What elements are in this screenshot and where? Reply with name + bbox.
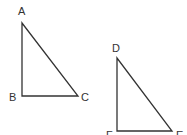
label-c: C	[81, 91, 89, 103]
triangles-diagram: A B C D F E	[0, 0, 187, 135]
label-e: E	[176, 129, 183, 135]
label-b: B	[9, 91, 16, 103]
label-a: A	[18, 5, 26, 17]
triangle-abc-shape	[22, 23, 78, 96]
triangle-def-shape	[117, 58, 172, 131]
label-d: D	[112, 42, 120, 54]
triangle-abc: A B C	[9, 5, 89, 103]
triangle-def: D F E	[106, 42, 183, 135]
label-f: F	[106, 129, 113, 135]
